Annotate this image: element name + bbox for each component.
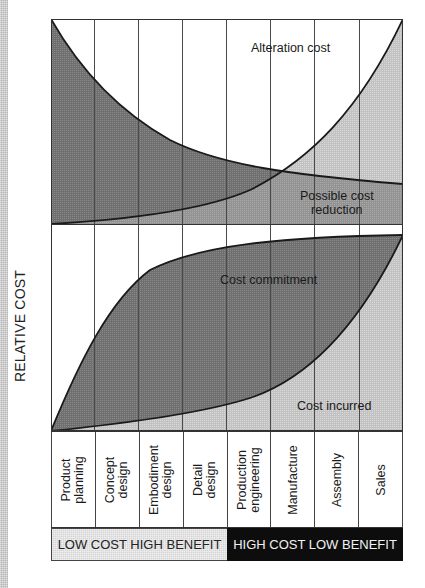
possible-cost-reduction-line2: reduction: [300, 203, 374, 217]
cost-commitment-label: Cost commitment: [220, 273, 317, 287]
stage-label: Manufacture: [286, 445, 299, 514]
possible-cost-reduction-line1: Possible cost: [300, 189, 374, 203]
stage-production-engineering: Production engineering: [228, 432, 272, 527]
stage-label: Production engineering: [236, 447, 262, 512]
stage-sales: Sales: [359, 432, 403, 527]
possible-cost-reduction-label: Possible cost reduction: [300, 189, 374, 217]
stage-concept-design: Concept design: [96, 432, 140, 527]
stage-label: Assembly: [330, 452, 343, 506]
stage-label: Sales: [374, 464, 387, 495]
cost-incurred-label: Cost incurred: [297, 399, 371, 413]
low-cost-high-benefit-banner: LOW COST HIGH BENEFIT: [51, 528, 227, 561]
high-cost-low-benefit-banner: HIGH COST LOW BENEFIT: [227, 528, 403, 561]
alteration-cost-label: Alteration cost: [251, 41, 330, 55]
stage-label: Product planning: [60, 456, 86, 503]
stage-assembly: Assembly: [315, 432, 359, 527]
stage-row: Product planning Concept design Embodime…: [51, 431, 403, 528]
y-axis-label: RELATIVE COST: [12, 256, 28, 396]
stage-embodiment-design: Embodiment design: [140, 432, 184, 527]
stage-label: Embodiment design: [148, 444, 174, 514]
stage-label: Concept design: [104, 456, 130, 503]
stage-label: Detail design: [192, 461, 218, 498]
stage-detail-design: Detail design: [184, 432, 228, 527]
stage-product-planning: Product planning: [51, 432, 96, 527]
stage-manufacture: Manufacture: [271, 432, 315, 527]
